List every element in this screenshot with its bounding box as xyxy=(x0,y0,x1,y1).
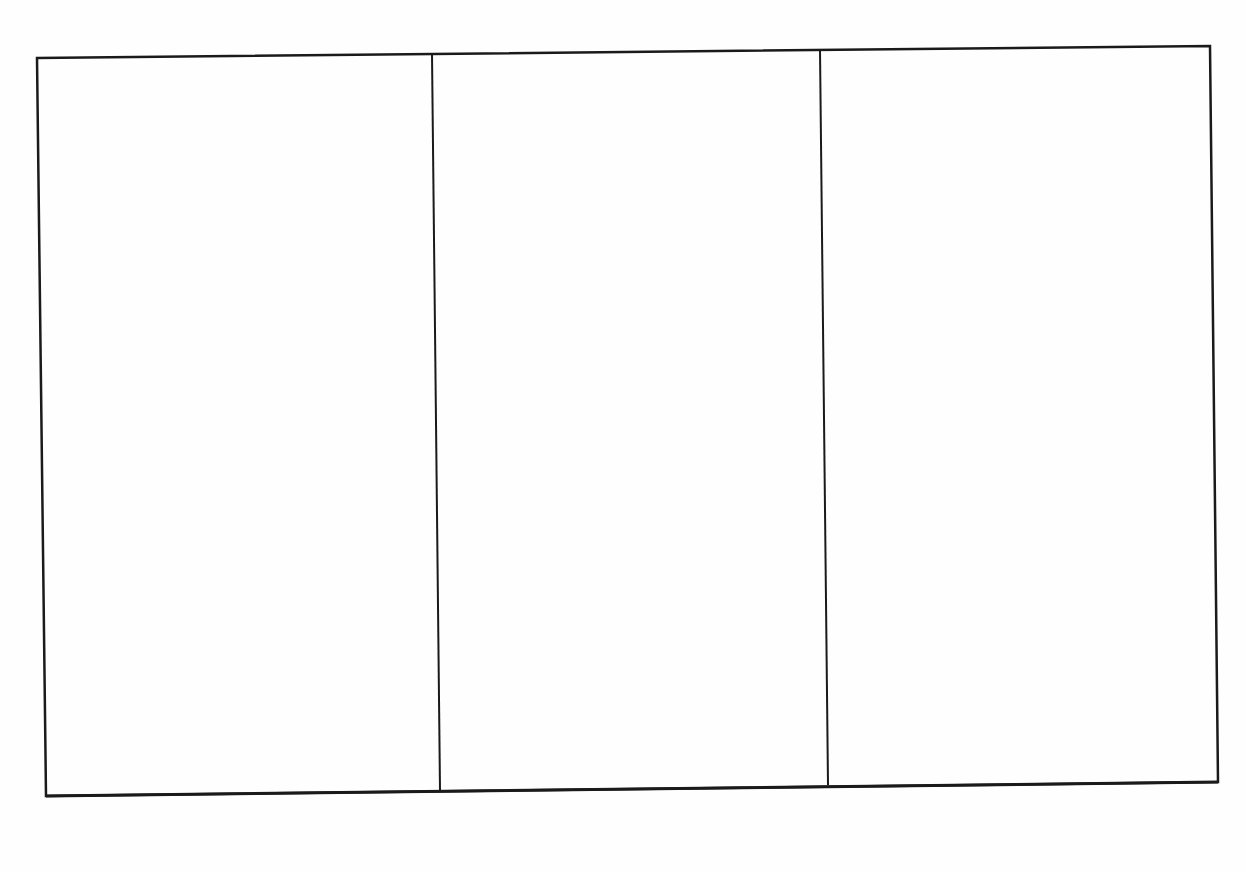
panel-1 xyxy=(42,60,432,790)
panel-3 xyxy=(826,52,1212,782)
panel-2 xyxy=(438,56,822,786)
scanned-page xyxy=(0,0,1246,872)
